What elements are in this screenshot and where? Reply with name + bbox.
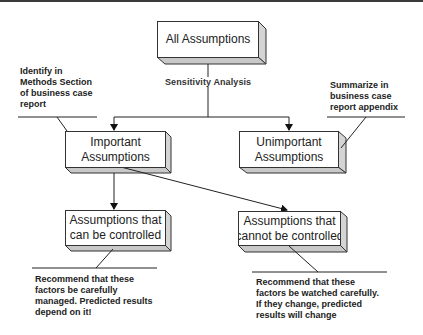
note-important-line4: report <box>20 99 93 110</box>
node-uncontrolled-line1: Assumptions that <box>243 214 335 229</box>
node-controllable-assumptions: Assumptions that can be controlled <box>65 210 166 246</box>
diagram-canvas: All Assumptions Important Assumptions Un… <box>0 0 423 335</box>
note-uncontrolled: Recommend that these factors be watched … <box>256 277 379 321</box>
note-controlled: Recommend that these factors be carefull… <box>35 274 153 318</box>
note-uncontrolled-line1: Recommend that these <box>256 277 379 288</box>
node-important-assumptions: Important Assumptions <box>65 131 166 168</box>
note-uncontrolled-line3: If they change, predicted <box>256 299 379 310</box>
note-controlled-line4: depend on it! <box>35 307 153 318</box>
node-controlled-line2: can be controlled <box>70 228 161 243</box>
note-unimportant-line2: business case <box>330 91 398 102</box>
node-important-line1: Important <box>90 135 141 150</box>
note-leader-unimportant <box>341 117 366 148</box>
note-important-line1: Identify in <box>20 66 93 77</box>
note-uncontrolled-line4: results will change <box>256 310 379 321</box>
note-important: Identify in Methods Section of business … <box>20 66 93 110</box>
note-leader-important <box>57 117 67 131</box>
edge-label-text: Sensitivity Analysis <box>165 77 251 87</box>
node-unimportant-line2: Assumptions <box>255 150 324 165</box>
node-unimportant-assumptions: Unimportant Assumptions <box>239 131 339 168</box>
node-important-line2: Assumptions <box>81 150 150 165</box>
node-unimportant-line1: Unimportant <box>256 135 321 150</box>
note-uncontrolled-line2: factors be watched carefully. <box>256 288 379 299</box>
note-important-line2: Methods Section <box>20 77 93 88</box>
edge-label-sensitivity-analysis: Sensitivity Analysis <box>164 77 252 87</box>
node-uncontrolled-line2: cannot be controlled <box>238 229 341 244</box>
note-leader-controlled <box>96 249 113 268</box>
note-controlled-line3: managed. Predicted results <box>35 296 153 307</box>
note-unimportant-line3: report appendix <box>330 102 398 113</box>
node-uncontrollable-assumptions: Assumptions that cannot be controlled <box>238 211 341 246</box>
node-all-assumptions-label: All Assumptions <box>166 32 251 47</box>
note-important-line3: of business case <box>20 88 93 99</box>
node-controlled-line1: Assumptions that <box>69 213 161 228</box>
note-unimportant-line1: Summarize in <box>330 80 398 91</box>
node-all-assumptions: All Assumptions <box>157 21 259 58</box>
note-controlled-line2: factors be carefully <box>35 285 153 296</box>
note-unimportant: Summarize in business case report append… <box>330 80 398 113</box>
note-controlled-line1: Recommend that these <box>35 274 153 285</box>
